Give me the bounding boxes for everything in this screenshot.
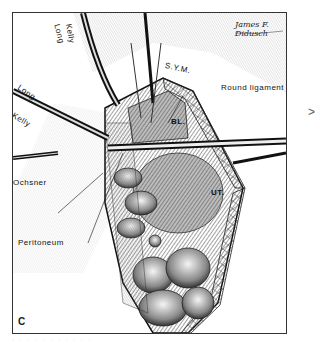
artist-signature: James F. Didusch [235, 20, 286, 38]
illustration-frame: Long Kelly Long Kelly Ochsner Peritoneum… [12, 12, 287, 334]
label-peritoneum: Peritoneum [18, 238, 64, 247]
label-round-ligament: Round ligament [221, 83, 284, 92]
label-uterus: UT. [211, 188, 225, 197]
surgical-illustration [13, 13, 286, 333]
label-bladder: BL. [171, 117, 185, 126]
caption-fragment: · · · · · · · · · · · [12, 337, 93, 343]
label-ochsner: Ochsner [13, 178, 47, 187]
panel-letter: C [18, 316, 25, 327]
side-mark: > [308, 105, 315, 119]
